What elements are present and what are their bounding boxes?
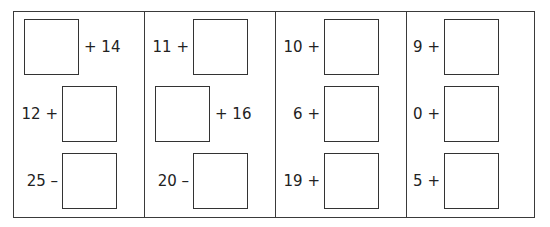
answer-box[interactable] [444, 19, 499, 75]
answer-box[interactable] [24, 19, 79, 75]
problem-term: + 16 [215, 105, 251, 123]
answer-box[interactable] [193, 153, 248, 209]
problem-term: 12 + [20, 105, 58, 123]
problem-term: 25 – [20, 172, 58, 190]
problem-term: 20 – [150, 172, 189, 190]
answer-box[interactable] [62, 86, 117, 142]
problem-term: + 14 [84, 38, 120, 56]
column-divider [275, 11, 276, 218]
problem-term: 11 + [150, 38, 189, 56]
problem-term: 9 + [410, 38, 440, 56]
answer-box[interactable] [62, 153, 117, 209]
answer-box[interactable] [324, 86, 379, 142]
problem-term: 0 + [410, 105, 440, 123]
answer-box[interactable] [193, 19, 248, 75]
problem-term: 5 + [410, 172, 440, 190]
answer-box[interactable] [155, 86, 210, 142]
answer-box[interactable] [444, 153, 499, 209]
column-divider [406, 11, 407, 218]
answer-box[interactable] [444, 86, 499, 142]
column-divider [144, 11, 145, 218]
answer-box[interactable] [324, 19, 379, 75]
problem-term: 10 + [280, 38, 320, 56]
problem-term: 6 + [280, 105, 320, 123]
problem-term: 19 + [280, 172, 320, 190]
answer-box[interactable] [324, 153, 379, 209]
